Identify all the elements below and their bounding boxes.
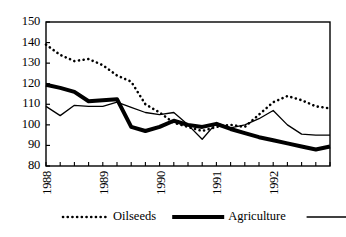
y-tick-label: 110 — [10, 97, 40, 109]
x-axis-tick-marks — [46, 162, 330, 166]
series-line-agriculture — [46, 85, 330, 150]
x-tick-label: 1989 — [97, 171, 112, 195]
legend-label-agriculture: Agriculture — [228, 210, 286, 223]
y-tick-label: 140 — [10, 36, 40, 48]
x-tick-label: 1991 — [210, 171, 225, 195]
line-chart-canvas — [0, 0, 346, 237]
x-tick-label: 1992 — [267, 171, 282, 195]
data-series-layer — [46, 45, 330, 150]
series-line-cereals — [46, 102, 330, 139]
y-tick-label: 150 — [10, 15, 40, 27]
y-tick-label: 80 — [10, 159, 40, 171]
series-line-oilseeds — [46, 45, 330, 131]
y-tick-label: 100 — [10, 118, 40, 130]
legend-label-oilseeds: Oilseeds — [113, 210, 156, 223]
y-tick-label: 120 — [10, 77, 40, 89]
y-tick-label: 130 — [10, 56, 40, 68]
x-tick-label: 1990 — [154, 171, 169, 195]
y-tick-label: 90 — [10, 138, 40, 150]
chart-figure: 1501401301201101009080 19881989199019911… — [0, 0, 346, 237]
x-tick-label: 1988 — [40, 171, 55, 195]
